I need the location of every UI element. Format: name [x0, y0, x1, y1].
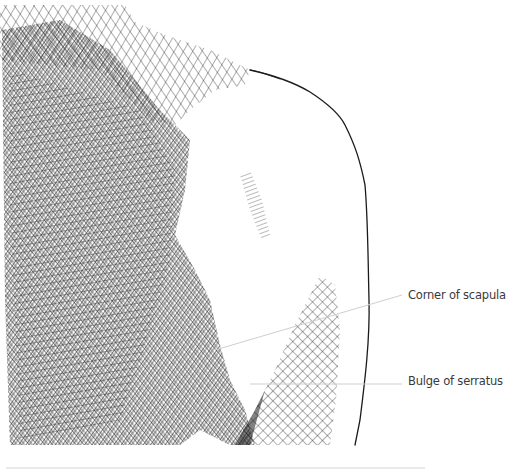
anatomy-illustration	[0, 0, 509, 470]
deltoid-hatching	[240, 170, 270, 240]
label-bulge-of-serratus: Bulge of serratus	[408, 376, 503, 388]
serratus-hatching	[235, 275, 340, 445]
label-corner-of-scapula: Corner of scapula	[408, 290, 506, 302]
